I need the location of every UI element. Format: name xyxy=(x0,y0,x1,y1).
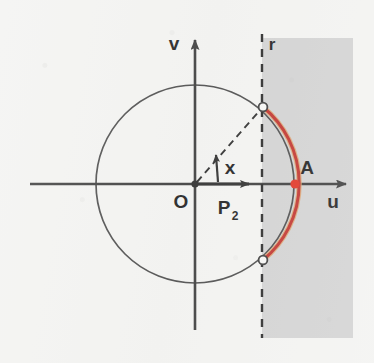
angle-x-label: x xyxy=(225,157,236,178)
shaded-halfplane-region xyxy=(262,38,353,338)
unit-circle-diagram: O u v x P 2 r A xyxy=(0,0,374,363)
intersection-point-upper xyxy=(259,103,268,112)
origin-label: O xyxy=(174,191,189,212)
figure-canvas: O u v x P 2 r A xyxy=(0,0,374,363)
point-a-marker xyxy=(290,179,299,188)
line-r-label: r xyxy=(269,35,276,54)
vector-p2-subscript: 2 xyxy=(232,209,239,223)
vector-p2-label: P xyxy=(218,197,231,218)
origin-point xyxy=(191,180,198,187)
v-axis-label: v xyxy=(169,33,180,54)
u-axis-label: u xyxy=(327,191,339,212)
intersection-point-lower xyxy=(259,256,268,265)
point-a-label: A xyxy=(300,157,314,178)
